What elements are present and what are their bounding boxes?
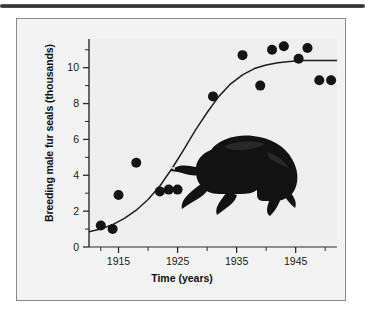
data-point [208, 91, 218, 101]
x-axis-ticks: 1915192519351945 [101, 247, 325, 267]
svg-text:4: 4 [73, 169, 79, 181]
data-point [96, 220, 106, 230]
svg-text:2: 2 [73, 205, 79, 217]
plot-area: 0246810 1915192519351945 Breeding male f… [17, 19, 347, 302]
svg-text:10: 10 [67, 61, 79, 73]
y-axis-ticks: 0246810 [67, 50, 89, 253]
y-axis-label: Breeding male fur seals (thousands) [43, 38, 55, 228]
data-point [302, 43, 312, 53]
svg-text:1935: 1935 [225, 255, 249, 267]
data-point [294, 54, 304, 64]
data-point [326, 75, 336, 85]
data-point [314, 75, 324, 85]
fur-seal-silhouette [167, 124, 302, 219]
page-top-rule [0, 4, 365, 8]
data-point [267, 45, 277, 55]
figure-frame: 0246810 1915192519351945 Breeding male f… [16, 18, 346, 301]
data-point [155, 186, 165, 196]
svg-text:0: 0 [73, 241, 79, 253]
data-point [279, 41, 289, 51]
data-point [255, 81, 265, 91]
data-point [108, 224, 118, 234]
svg-text:1945: 1945 [284, 255, 308, 267]
data-point [131, 158, 141, 168]
svg-text:6: 6 [73, 133, 79, 145]
svg-text:1925: 1925 [166, 255, 190, 267]
data-point [238, 50, 248, 60]
svg-text:1915: 1915 [107, 255, 131, 267]
svg-text:8: 8 [73, 97, 79, 109]
data-point [114, 190, 124, 200]
x-axis-label: Time (years) [17, 272, 347, 284]
